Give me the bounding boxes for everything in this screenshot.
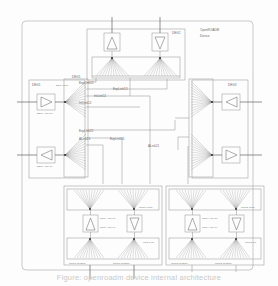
- deg1-amp-rx: [17, 94, 64, 110]
- deg2-amp-tx: [152, 17, 168, 57]
- link-label-ExpLink31: ExpLink31: [110, 137, 125, 141]
- deg1-amp-rx-label: DEG-AMP-RX: [37, 112, 53, 115]
- deg3-amp-tx: [213, 147, 262, 163]
- deg3-label: DEG3: [228, 83, 237, 87]
- deg2-label: DEG2: [172, 31, 181, 35]
- srg1-amp-tx: [127, 210, 142, 238]
- srg2-fan-ul: [176, 190, 206, 210]
- deg1-inner-label: DEG1: [72, 75, 81, 79]
- srg1-fan-ul: [74, 190, 104, 210]
- deg3-amp-rx: [213, 94, 262, 110]
- srg2-amp-rx-label: SRG-AMP-RX: [202, 217, 218, 220]
- figure-caption: Figure: openroadm device internal archit…: [0, 270, 278, 286]
- deg2-fan-left: [96, 57, 129, 76]
- deg3-fan-top: [191, 81, 213, 117]
- srg1-wss-label: SRG1-WSS: [139, 206, 153, 209]
- srg2-client-b-label: SRG2-CLIENT: [215, 262, 232, 265]
- srg2-amp-rx: [185, 210, 200, 238]
- deg1-amp-tx: [17, 147, 64, 163]
- link-label-IntLink12: IntLink12: [79, 101, 92, 105]
- srg1-client-a-label: SRG1-CLIENT: [69, 262, 86, 265]
- deg2-amp-rx: [104, 17, 120, 57]
- srg1-fan-ll: [74, 238, 104, 258]
- deg1-outer-label: DEG1: [32, 83, 41, 87]
- srg1-amp-tx-label: SRG-AMP-TX: [100, 226, 116, 229]
- link-label-ALink21: ALink21: [148, 144, 159, 148]
- device-boundary: [22, 21, 253, 270]
- srg2-amp-tx: [229, 210, 244, 238]
- link-label-ExpLink13: ExpLink13: [113, 87, 128, 91]
- link-label-ALink13: ALink13: [79, 137, 90, 141]
- srg1-client-b-label: SRG1-CLIENT: [113, 262, 130, 265]
- srg1-group: SRG1-WSS SRG-AMP-RX: [64, 186, 162, 279]
- srg1-cp-label: SRG1-CP: [143, 241, 154, 244]
- link-label-ExpLink12: ExpLink12: [79, 81, 94, 85]
- srg2-wss-label: SRG2-WSS: [241, 206, 255, 209]
- deg1-amp-tx-label: DEG-AMP-TX: [37, 165, 53, 168]
- openroadm-architecture-diagram: OpenROADM Device DEG2: [0, 0, 278, 286]
- srg2-client-a-label: SRG2-CLIENT: [171, 262, 188, 265]
- deg3-fan-bottom: [191, 134, 213, 170]
- srg2-amp-tx-label: SRG-AMP-TX: [202, 226, 218, 229]
- srg1-amp-rx-label: SRG-AMP-RX: [100, 217, 116, 220]
- srg2-cp-label: SRG2-CP: [245, 241, 256, 244]
- srg2-fan-ll: [176, 238, 206, 258]
- link-label-IntLink11: IntLink11: [94, 94, 107, 98]
- deg1-wss-label: DEG-WSS: [56, 84, 68, 87]
- srg2-group: SRG2-WSS SRG-AMP-RX SRG: [166, 186, 264, 272]
- deg2-fan-right: [144, 57, 177, 76]
- device-label-line1: OpenROADM: [200, 28, 220, 32]
- device-label-line2: Device: [200, 34, 210, 38]
- srg1-amp-rx: [83, 210, 98, 238]
- figure-canvas: OpenROADM Device DEG2: [0, 0, 278, 286]
- link-label-ExpLink21: ExpLink21: [79, 129, 94, 133]
